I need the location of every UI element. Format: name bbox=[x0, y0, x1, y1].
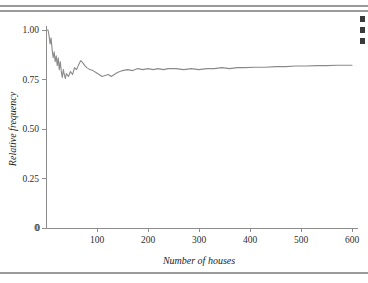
x-tick-label-3: 300 bbox=[192, 235, 207, 245]
x-axis-title: Number of houses bbox=[162, 255, 235, 266]
top-rule-lower bbox=[0, 10, 368, 12]
x-tick-label-1: 100 bbox=[90, 235, 105, 245]
x-tick-label-5: 500 bbox=[294, 235, 309, 245]
figure-container: 00.250.500.751.000100200300400500600Numb… bbox=[0, 0, 368, 283]
x-tick-label-4: 400 bbox=[243, 235, 258, 245]
data-series-line bbox=[47, 30, 352, 79]
x-tick-label-0: 0 bbox=[35, 223, 40, 233]
y-tick-label-3: 0.75 bbox=[22, 75, 39, 85]
y-axis-title: Relative frequency bbox=[7, 91, 18, 167]
y-tick-label-4: 1.00 bbox=[22, 25, 39, 35]
top-rule-upper bbox=[0, 5, 368, 7]
line-chart: 00.250.500.751.000100200300400500600Numb… bbox=[0, 14, 368, 270]
x-tick-label-6: 600 bbox=[345, 235, 360, 245]
y-tick-label-2: 0.50 bbox=[22, 124, 39, 134]
y-tick-label-1: 0.25 bbox=[22, 174, 39, 184]
bottom-rule bbox=[0, 272, 368, 274]
x-tick-label-2: 200 bbox=[141, 235, 156, 245]
chart-svg: 00.250.500.751.000100200300400500600Numb… bbox=[0, 14, 368, 270]
